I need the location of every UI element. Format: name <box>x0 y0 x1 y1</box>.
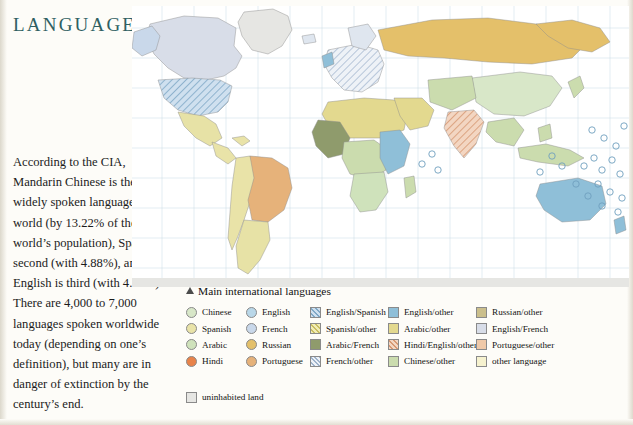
legend-swatch-hindi-english-other <box>388 339 399 350</box>
legend-swatch-portuguese-other <box>476 339 487 350</box>
legend-item[interactable]: Hindi <box>186 353 232 369</box>
legend-swatch-chinese <box>186 307 197 318</box>
legend-label: Spanish <box>202 324 231 334</box>
legend-item[interactable]: other language <box>476 353 554 369</box>
page-title: LANGUAGE <box>13 14 136 36</box>
paper-edge-bottom <box>0 419 633 425</box>
legend-swatch-spanish-other <box>310 323 321 334</box>
legend-swatch-hindi <box>186 356 197 367</box>
legend-title: Main international languages <box>186 285 331 297</box>
triangle-up-icon <box>186 287 194 294</box>
legend-label: Arabic <box>202 340 227 350</box>
legend-swatch-russian <box>246 339 257 350</box>
legend-item[interactable]: Russian <box>246 337 303 353</box>
legend-label: Russian/other <box>492 307 543 317</box>
legend-swatch-uninhabited <box>186 392 197 403</box>
legend-label: English/French <box>492 324 548 334</box>
legend-swatch-portuguese <box>246 356 257 367</box>
legend-label: English <box>262 307 290 317</box>
legend-label: Portuguese <box>262 356 303 366</box>
legend-item[interactable]: Chinese <box>186 304 232 320</box>
legend-swatch-english-other <box>388 307 399 318</box>
legend-label: English/other <box>404 307 454 317</box>
paper-edge-left <box>0 0 7 425</box>
legend-item[interactable]: Chinese/other <box>388 353 477 369</box>
legend-swatch-russian-other <box>476 307 487 318</box>
legend-label: Hindi/English/other <box>404 340 477 350</box>
legend-swatch-english-spanish <box>310 307 321 318</box>
legend-label: Arabic/other <box>404 324 450 334</box>
legend-item[interactable]: Arabic/French <box>310 337 386 353</box>
legend-item[interactable]: English/French <box>476 320 554 336</box>
legend-label: Arabic/French <box>326 340 379 350</box>
legend-label: other language <box>492 356 546 366</box>
legend-swatch-other-language <box>476 356 487 367</box>
legend-item[interactable]: French <box>246 320 303 336</box>
legend-label: Hindi <box>202 356 223 366</box>
legend-label: Chinese/other <box>404 356 455 366</box>
legend-item[interactable]: English <box>246 304 303 320</box>
legend-swatch-arabic-french <box>310 339 321 350</box>
legend-swatch-english-french <box>476 323 487 334</box>
legend-title-label: Main international languages <box>198 285 331 297</box>
legend-column-3: English/Spanish Spanish/other Arabic/Fre… <box>310 304 386 370</box>
legend-label: French/other <box>326 356 373 366</box>
legend-item[interactable]: Spanish <box>186 320 232 336</box>
region-iceland <box>302 34 316 44</box>
legend-item[interactable]: Russian/other <box>476 304 554 320</box>
legend-item[interactable]: Arabic <box>186 337 232 353</box>
legend-label: Russian <box>262 340 291 350</box>
legend-swatch-chinese-other <box>388 356 399 367</box>
legend-label: Chinese <box>202 307 232 317</box>
legend-item[interactable]: Portuguese <box>246 353 303 369</box>
page-root: LANGUAGE According to the CIA, Mandarin … <box>0 0 633 425</box>
legend-swatch-arabic <box>186 339 197 350</box>
legend-label: Portuguese/other <box>492 340 554 350</box>
legend-label: English/Spanish <box>326 307 386 317</box>
legend-item[interactable]: Hindi/English/other <box>388 337 477 353</box>
legend-column-2: English French Russian Portuguese <box>246 304 303 370</box>
legend-swatch-english <box>246 307 257 318</box>
legend-item[interactable]: English/other <box>388 304 477 320</box>
legend-swatch-french <box>246 323 257 334</box>
legend-column-4: English/other Arabic/other Hindi/English… <box>388 304 477 370</box>
legend-swatch-arabic-other <box>388 323 399 334</box>
legend-label: uninhabited land <box>202 392 264 402</box>
legend-item-uninhabited[interactable]: uninhabited land <box>186 389 264 405</box>
legend-label: Spanish/other <box>326 324 377 334</box>
legend-swatch-spanish <box>186 323 197 334</box>
legend-column-1: Chinese Spanish Arabic Hindi <box>186 304 232 370</box>
legend-column-5: Russian/other English/French Portuguese/… <box>476 304 554 370</box>
legend-label: French <box>262 324 288 334</box>
map-legend: Main international languages Chinese Spa… <box>186 285 626 416</box>
world-map <box>132 6 629 287</box>
legend-item[interactable]: Portuguese/other <box>476 337 554 353</box>
legend-item[interactable]: French/other <box>310 353 386 369</box>
legend-item[interactable]: Arabic/other <box>388 320 477 336</box>
legend-item[interactable]: Spanish/other <box>310 320 386 336</box>
legend-swatch-french-other <box>310 356 321 367</box>
legend-item[interactable]: English/Spanish <box>310 304 386 320</box>
